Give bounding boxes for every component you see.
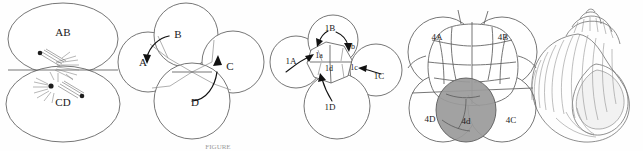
label-1d: 1d (325, 64, 333, 73)
label-1D: 1D (325, 102, 337, 112)
label-1B: 1B (325, 23, 336, 33)
label-b: B (174, 28, 181, 40)
label-1c: 1c (350, 63, 358, 72)
label-4C: 4C (506, 115, 517, 125)
micromere-rosette (307, 42, 352, 83)
label-a: A (139, 56, 147, 68)
micromere-cluster-outline (307, 42, 352, 83)
label-4d: 4d (462, 116, 472, 126)
label-1A: 1A (286, 56, 298, 66)
label-d: D (191, 96, 199, 108)
label-cd: CD (55, 96, 70, 108)
label-4D: 4D (425, 114, 437, 124)
centrosome-mid (48, 83, 53, 88)
centrosome-upper (38, 51, 43, 56)
blastomere-ab (8, 3, 118, 75)
label-4B: 4B (498, 32, 509, 42)
label-ab: AB (55, 26, 70, 38)
panel-4-mesentoblast-stage: 4A 4B 4D 4d 4C (408, 10, 537, 142)
label-4A: 4A (432, 32, 444, 42)
embryology-figure: AB CD A B C D (0, 0, 643, 151)
label-1a: 1a (315, 51, 323, 60)
label-c: C (226, 60, 233, 72)
centrosome-lower (80, 94, 85, 99)
mesentoblast-4d-cell (436, 78, 496, 142)
figure-canvas: AB CD A B C D (0, 0, 643, 151)
cell-4d-shape (436, 78, 496, 142)
label-1b: 1b (347, 42, 355, 51)
macromere-1d (304, 73, 370, 139)
figure-caption: FIGURE (205, 143, 230, 151)
label-1C: 1C (374, 71, 385, 81)
